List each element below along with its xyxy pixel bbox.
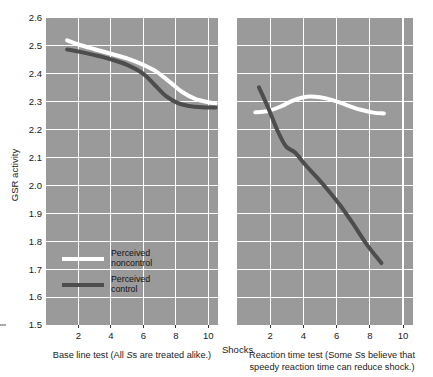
y-tick-label: 1.6 <box>29 291 42 302</box>
caption-baseline: Base line test (All Ss are treated alike… <box>53 350 211 360</box>
x-tick-label: 4 <box>108 330 113 341</box>
x-tick-label: 8 <box>173 330 178 341</box>
chart-svg: 2.62.52.42.32.22.12.01.91.81.71.61.5 246… <box>0 0 433 377</box>
legend-label-control-line2: control <box>111 284 137 294</box>
legend-label-noncontrol-line1: Perceived <box>111 248 150 258</box>
y-tick-label: 1.8 <box>29 236 42 247</box>
x-tick-label: 10 <box>398 330 409 341</box>
y-tick-label: 2.2 <box>29 124 42 135</box>
y-axis-title: GSR activity <box>9 149 20 202</box>
y-tick-label: 2.6 <box>29 12 42 23</box>
y-tick-label: 2.0 <box>29 180 42 191</box>
x-tick-label: 10 <box>203 330 214 341</box>
plot-background-right <box>237 18 413 325</box>
panel-reaction-time <box>237 18 413 325</box>
caption-reaction-line2: speedy reaction time can reduce shock.) <box>250 362 415 372</box>
x-axis-ticks-left: 246810 <box>76 325 214 341</box>
x-tick-label: 8 <box>367 330 372 341</box>
y-tick-label: 2.3 <box>29 96 42 107</box>
y-axis-ticks: 2.62.52.42.32.22.12.01.91.81.71.61.5 <box>29 12 42 330</box>
y-tick-label: 2.4 <box>29 68 42 79</box>
y-tick-label: 1.7 <box>29 264 42 275</box>
x-tick-label: 2 <box>268 330 273 341</box>
x-tick-label: 2 <box>76 330 81 341</box>
caption-reaction-line1: Reaction time test (Some Ss believe that <box>249 350 415 360</box>
legend-label-control-line1: Perceived <box>111 274 150 284</box>
x-tick-label: 4 <box>301 330 306 341</box>
x-tick-label: 6 <box>141 330 146 341</box>
y-tick-label: 1.5 <box>29 319 42 330</box>
legend-label-noncontrol-line2: noncontrol <box>111 258 152 268</box>
y-tick-label: 1.9 <box>29 208 42 219</box>
x-tick-label: 6 <box>334 330 339 341</box>
x-axis-ticks-right: 246810 <box>268 325 409 341</box>
y-tick-label: 2.5 <box>29 40 42 51</box>
gsr-activity-figure: 2.62.52.42.32.22.12.01.91.81.71.61.5 246… <box>0 0 433 377</box>
y-tick-label: 2.1 <box>29 152 42 163</box>
